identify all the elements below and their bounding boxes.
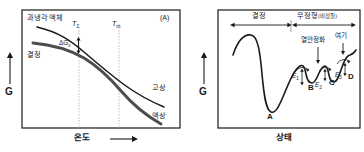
label-supercooled-liquid: 과냉각 액체: [27, 14, 63, 21]
y-axis-arrow-head: [7, 52, 13, 58]
label-thermal-stabilization: 열안정화: [301, 37, 325, 44]
panel-a-x-axis-label: 온도: [74, 133, 90, 142]
panel-a-plot: [0, 0, 182, 152]
x-axis-arrow-head: [132, 136, 138, 142]
panel-b-y-axis-label: G: [199, 87, 207, 97]
label-excitation: 여기: [335, 33, 347, 40]
label-region-amorphous-sub: (비정질): [318, 13, 337, 19]
label-tm-sub: m: [116, 23, 120, 29]
y-axis-arrow-head: [201, 52, 207, 58]
label-delta-g-text: ΔG: [59, 39, 68, 46]
label-tm: Tm: [112, 20, 120, 29]
label-e3: E3: [335, 72, 342, 81]
label-e2-sub: 2: [319, 85, 322, 90]
panel-free-energy-vs-temperature: 과냉각 액체 결정 T1 Tm ΔGv 고상 액상 (A) G 온도: [0, 0, 182, 152]
label-t1: T1: [72, 20, 79, 29]
panel-a-tag: (A): [160, 14, 169, 21]
label-liquid-phase: 액상: [152, 112, 166, 119]
label-state-a: A: [267, 113, 273, 121]
label-region-crystalline: 결정: [252, 12, 266, 19]
label-crystal: 결정: [27, 51, 41, 58]
label-delta-g-sub: v: [68, 43, 70, 48]
label-region-amorphous: 무정형(비정질): [297, 12, 337, 19]
label-e1: E1: [292, 73, 299, 82]
label-t1-sub: 1: [76, 23, 79, 29]
label-state-b: B: [308, 84, 314, 92]
label-state-d: D: [348, 73, 354, 81]
panel-a-y-axis-label: G: [5, 87, 13, 97]
label-region-amorphous-main: 무정형: [297, 11, 318, 20]
panel-free-energy-vs-state: 결정 무정형(비정질) 열안정화 여기 E1 E2 E3 A B C D G 상…: [182, 0, 364, 152]
label-e1-sub: 1: [296, 76, 299, 81]
label-delta-g: ΔGv: [59, 40, 71, 49]
label-state-c: C: [329, 79, 335, 87]
label-e3-sub: 3: [339, 75, 342, 80]
panel-b-x-axis-label: 상태: [276, 133, 292, 142]
label-e2: E2: [315, 82, 322, 91]
figure-container: 과냉각 액체 결정 T1 Tm ΔGv 고상 액상 (A) G 온도: [0, 0, 364, 152]
label-solid-phase: 고상: [152, 84, 166, 91]
plot-frame: [218, 10, 360, 128]
